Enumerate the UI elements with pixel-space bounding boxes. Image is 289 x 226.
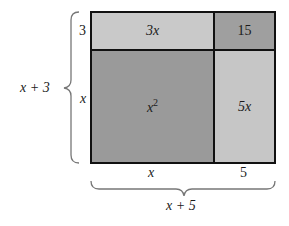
left-segment-3: 3: [79, 24, 86, 38]
outer-border: [91, 12, 275, 163]
bottom-brace-icon: [91, 181, 275, 196]
left-total: x + 3: [20, 81, 50, 95]
diagram-lines: [0, 0, 289, 226]
left-segment-x: x: [80, 92, 86, 106]
bottom-segment-5: 5: [240, 166, 247, 180]
left-brace-icon: [64, 12, 79, 163]
bottom-total: x + 5: [166, 199, 196, 213]
bottom-segment-x: x: [148, 166, 154, 180]
